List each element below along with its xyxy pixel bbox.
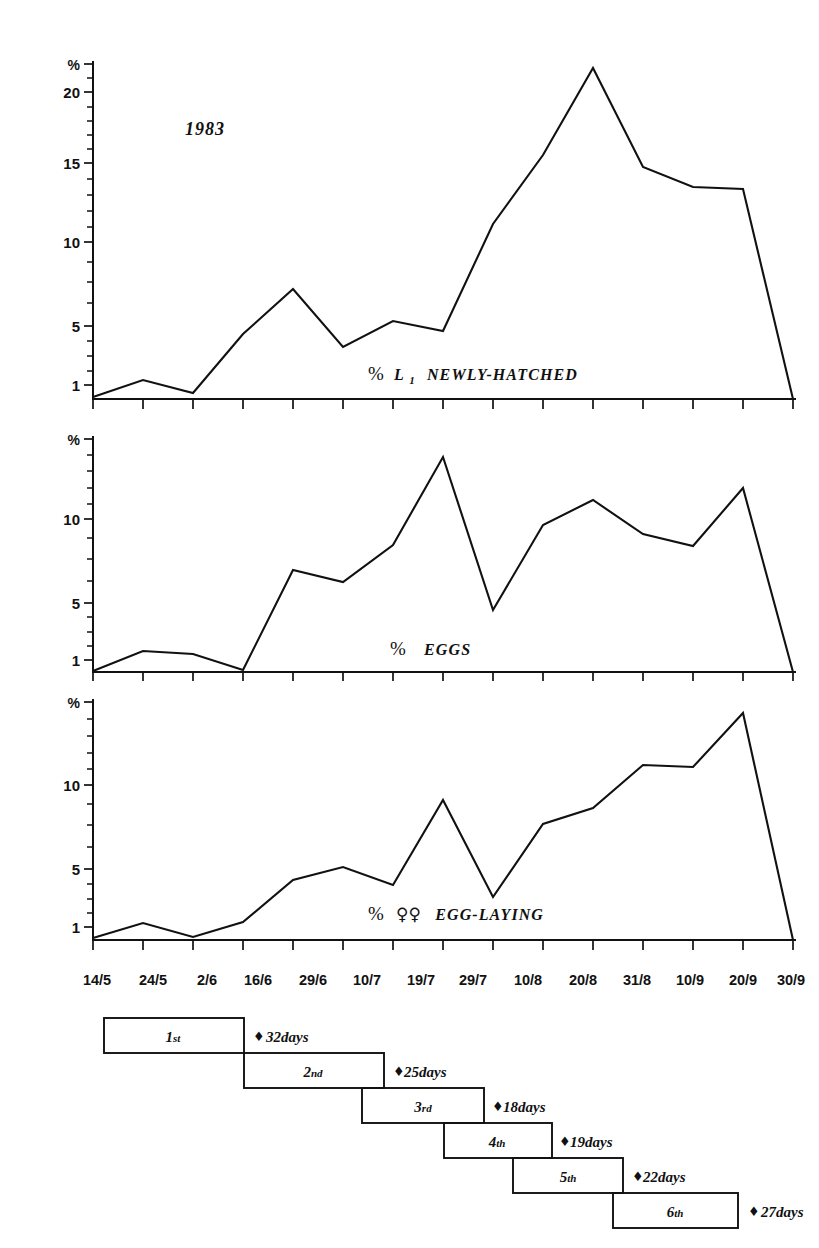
panel3-y-label-1: 1 (72, 919, 80, 936)
panel2-y-label-1: 1 (72, 652, 80, 669)
generation-cascade-diagram: 1st ♦ 32days 2nd ♦ 25days 3rd ♦ (104, 1018, 804, 1228)
panel3-y-label-5: 5 (72, 861, 80, 878)
svg-text:% ♀♀ EGG-L: % ♀♀ EGG-LAYING (368, 903, 544, 924)
x-tick-label-5: 10/7 (353, 972, 381, 988)
panel1-y-label-percent: % (68, 57, 81, 73)
panel3-caption-rest: EGG-LAYING (434, 906, 544, 923)
generation-days-1: 32days (265, 1029, 309, 1045)
panel2-y-label-5: 5 (72, 595, 80, 612)
panel2-caption-rest: EGGS (423, 641, 471, 658)
panel1-y-label-20: 20 (63, 84, 80, 101)
panel1-y-label-1: 1 (72, 377, 80, 394)
panel1-caption-rest: NEWLY-HATCHED (426, 366, 578, 383)
diamond-marker-icon-3: ♦ (492, 1099, 504, 1114)
panel-eggs: % 10 5 1 (63, 432, 795, 681)
panel2-caption-percent: % (390, 638, 406, 659)
generation-label-2: 2nd (302, 1064, 323, 1080)
panel3-x-ticks (93, 940, 793, 950)
panel3-caption: % ♀♀ EGG-LAYING (368, 903, 544, 924)
generation-row-1: 1st ♦ 32days (104, 1018, 309, 1053)
diamond-marker-icon-1: ♦ (253, 1029, 265, 1044)
panel1-y-label-15: 15 (63, 155, 80, 172)
panel2-series-line (93, 457, 793, 672)
panel1-caption-percent: % (368, 363, 384, 384)
diamond-marker-icon-2: ♦ (393, 1064, 405, 1079)
x-tick-label-0: 14/5 (83, 972, 111, 988)
figure-svg: % 20 15 10 5 1 (0, 0, 819, 1248)
generation-row-3: 3rd ♦ 18days (362, 1088, 546, 1123)
x-tick-label-9: 20/8 (569, 972, 597, 988)
year-annotation: 1983 (185, 119, 225, 139)
x-axis-tick-labels: 14/5 24/5 2/6 16/6 29/6 10/7 19/7 29/7 1… (83, 972, 805, 988)
generation-days-4: 19days (570, 1134, 613, 1150)
panel-newly-hatched: % 20 15 10 5 1 (63, 57, 795, 409)
panel1-y-label-5: 5 (72, 318, 80, 335)
generation-label-1: 1st (166, 1029, 182, 1045)
panel3-caption-percent: % (368, 903, 384, 924)
generation-label-5: 5th (560, 1169, 577, 1185)
panel3-y-label-10: 10 (63, 777, 80, 794)
figure-container: % 20 15 10 5 1 (0, 0, 819, 1248)
svg-text:% EGGS: % EGGS (390, 638, 471, 659)
generation-label-3: 3rd (413, 1099, 432, 1115)
panel3-y-ticks (84, 702, 93, 927)
generation-days-2: 25days (403, 1064, 447, 1080)
panel1-caption-sub: 1 (409, 374, 415, 386)
panel1-caption: % L 1 NEWLY-HATCHED (368, 363, 578, 388)
x-tick-label-12: 20/9 (729, 972, 757, 988)
diamond-marker-icon-6: ♦ (748, 1204, 760, 1219)
generation-days-5: 22days (642, 1169, 686, 1185)
generation-label-4: 4th (488, 1134, 506, 1150)
panel1-y-label-10: 10 (63, 234, 80, 251)
female-symbol-icon: ♀♀ (396, 904, 421, 924)
x-tick-label-10: 31/8 (623, 972, 651, 988)
x-tick-label-4: 29/6 (299, 972, 327, 988)
generation-row-4: 4th ♦ 19days (444, 1123, 613, 1158)
x-tick-label-11: 10/9 (676, 972, 704, 988)
panel1-caption-main: L (393, 366, 405, 383)
panel1-x-ticks (93, 399, 793, 409)
panel2-caption: % EGGS (390, 638, 471, 659)
generation-days-6: 27days (760, 1204, 804, 1220)
x-tick-label-8: 10/8 (514, 972, 542, 988)
x-tick-label-2: 2/6 (197, 972, 217, 988)
generation-row-5: 5th ♦ 22days (513, 1158, 686, 1193)
generation-row-2: 2nd ♦ 25days (244, 1053, 447, 1088)
diamond-marker-icon-4: ♦ (559, 1134, 571, 1149)
svg-text:% L 1: % L 1 NEWLY-HATCHED (368, 363, 578, 388)
generation-label-6: 6th (667, 1204, 684, 1220)
panel1-series-line (93, 68, 793, 399)
x-tick-label-1: 24/5 (139, 972, 167, 988)
diamond-marker-icon-5: ♦ (632, 1169, 644, 1184)
panel2-y-ticks (84, 439, 93, 660)
panel-egg-laying: % 10 5 1 (63, 695, 795, 950)
generation-days-3: 18days (503, 1099, 546, 1115)
panel2-x-ticks (93, 672, 793, 681)
panel2-y-label-10: 10 (63, 511, 80, 528)
generation-row-6: 6th ♦ 27days (613, 1193, 804, 1228)
x-tick-label-6: 19/7 (407, 972, 435, 988)
x-tick-label-3: 16/6 (244, 972, 272, 988)
panel1-y-ticks (84, 64, 93, 385)
x-tick-label-7: 29/7 (459, 972, 487, 988)
panel2-y-label-percent: % (68, 432, 81, 448)
panel3-y-label-percent: % (68, 695, 81, 711)
x-tick-label-13: 30/9 (777, 972, 805, 988)
